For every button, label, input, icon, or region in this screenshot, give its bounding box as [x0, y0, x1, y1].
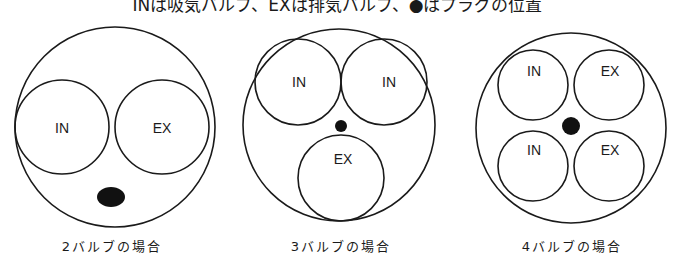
spark-plug-icon — [97, 187, 125, 207]
intake-valve-circle — [498, 50, 568, 120]
exhaust-valve-circle — [574, 50, 644, 120]
spark-plug-icon — [562, 117, 580, 135]
three-valve-diagram — [243, 29, 435, 221]
valve-layout-diagrams: IN EX IN IN EX IN EX IN EX — [0, 0, 675, 268]
valve-label: IN — [527, 63, 541, 79]
valve-label: EX — [601, 142, 620, 158]
two-valve-diagram — [15, 27, 215, 227]
three-valve-caption: 3バルブの場合 — [291, 236, 391, 255]
two-valve-caption: 2バルブの場合 — [62, 236, 162, 255]
exhaust-valve-circle — [298, 135, 384, 221]
valve-label: IN — [527, 142, 541, 158]
four-valve-caption: 4バルブの場合 — [522, 236, 622, 255]
valve-label: EX — [601, 63, 620, 79]
valve-label: IN — [382, 74, 396, 90]
spark-plug-icon — [335, 120, 347, 132]
valve-label: EX — [153, 120, 172, 136]
valve-label: IN — [55, 120, 69, 136]
valve-label: IN — [292, 74, 306, 90]
valve-label: EX — [334, 151, 353, 167]
four-valve-diagram — [476, 33, 666, 223]
